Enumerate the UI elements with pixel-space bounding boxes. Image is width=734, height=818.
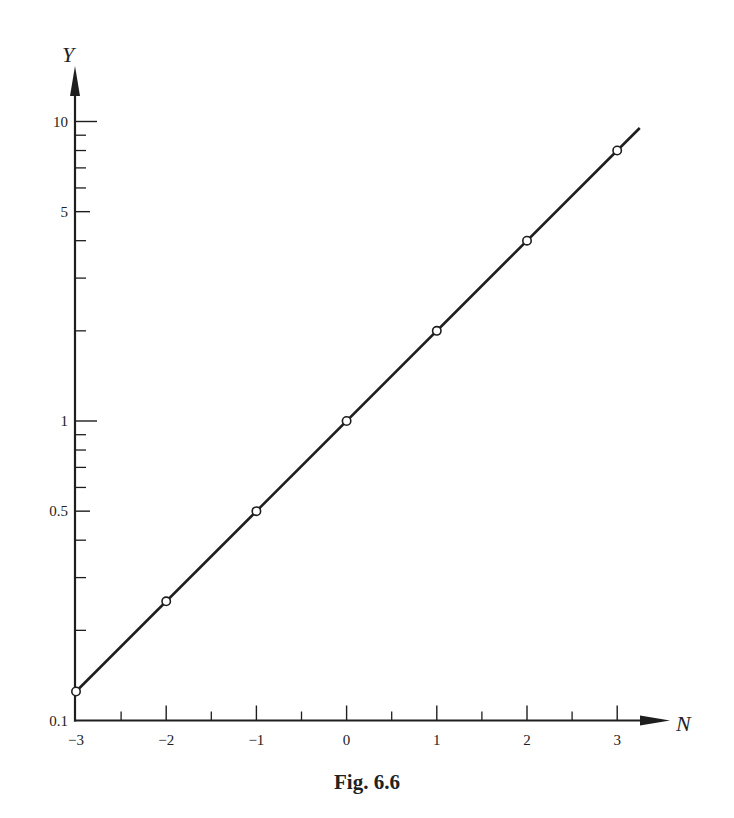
x-axis-ticks: −3−2−10123 xyxy=(68,706,621,748)
data-point-circle-icon xyxy=(433,327,441,335)
x-axis-arrow-icon xyxy=(640,716,670,726)
x-tick-label: −3 xyxy=(68,732,84,748)
x-tick-label: 0 xyxy=(343,732,351,748)
y-tick-label: 0.1 xyxy=(49,713,68,729)
data-point-circle-icon xyxy=(523,236,531,244)
fit-line xyxy=(76,128,640,691)
data-point-circle-icon xyxy=(162,597,170,605)
y-axis-ticks: 0.10.51510 xyxy=(49,114,97,729)
figure-caption: Fig. 6.6 xyxy=(0,770,734,795)
data-point-circle-icon xyxy=(342,417,350,425)
x-tick-label: −1 xyxy=(248,732,264,748)
data-point-circle-icon xyxy=(252,507,260,515)
y-tick-label: 1 xyxy=(61,413,69,429)
fit-line-path xyxy=(76,128,640,691)
x-axis xyxy=(74,716,670,726)
x-tick-label: 1 xyxy=(433,732,441,748)
y-axis-title: Y xyxy=(62,42,77,67)
x-tick-label: 3 xyxy=(613,732,621,748)
data-point-circle-icon xyxy=(72,687,80,695)
y-tick-label: 0.5 xyxy=(49,503,68,519)
y-axis-arrow-icon xyxy=(70,66,80,96)
x-tick-label: −2 xyxy=(158,732,174,748)
y-tick-label: 5 xyxy=(61,204,69,220)
x-axis-title: N xyxy=(675,711,692,736)
chart-canvas: 0.10.51510 −3−2−10123 Y N xyxy=(0,0,734,818)
y-tick-label: 10 xyxy=(53,114,68,130)
y-axis xyxy=(70,66,80,722)
x-tick-label: 2 xyxy=(523,732,531,748)
data-point-circle-icon xyxy=(613,146,621,154)
